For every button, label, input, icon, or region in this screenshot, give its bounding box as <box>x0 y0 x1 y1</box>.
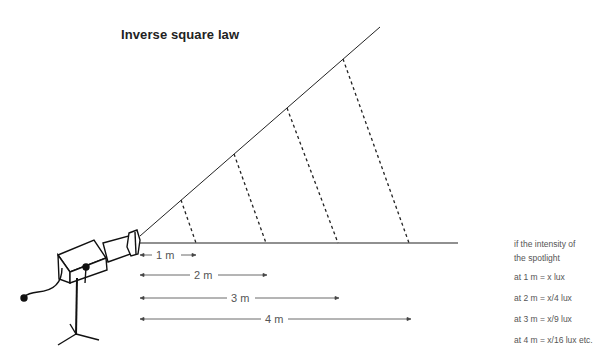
wavefront-1m <box>181 200 196 243</box>
notes-intro-line2: the spotlight <box>514 254 560 263</box>
distance-label-3m: 3 m <box>231 292 249 304</box>
wavefront-3m <box>287 108 338 243</box>
distance-label-1m: 1 m <box>156 249 174 261</box>
spotlight-icon <box>21 230 140 345</box>
note-item: at 2 m = x/4 lux <box>514 294 572 303</box>
distance-arrows <box>140 254 411 321</box>
wavefront-4m <box>343 59 409 243</box>
note-item: at 4 m = x/16 lux etc. <box>514 336 593 345</box>
distance-label-4m: 4 m <box>265 313 283 325</box>
cone-top-edge <box>140 27 380 236</box>
distance-label-2m: 2 m <box>194 269 212 281</box>
wavefront-lines <box>181 59 409 243</box>
inverse-square-diagram: 1 m 2 m 3 m 4 m <box>0 0 610 357</box>
wavefront-2m <box>234 154 266 243</box>
note-item: at 1 m = x lux <box>514 273 565 282</box>
notes-intro-line1: if the intensity of <box>514 240 575 249</box>
note-item: at 3 m = x/9 lux <box>514 315 572 324</box>
